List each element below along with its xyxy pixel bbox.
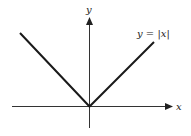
abs-value-line [20,33,154,107]
y-axis-arrow-icon [86,17,93,25]
y-axis-label: y [85,4,92,15]
x-axis-arrow-icon [165,103,173,110]
function-label: y = |x| [136,28,170,40]
abs-value-graph: y x y = |x| [0,0,191,136]
x-axis-label: x [176,101,182,112]
